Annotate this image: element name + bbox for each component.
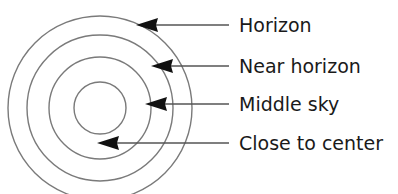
- label-arrows: [97, 18, 229, 150]
- center-ring: [74, 82, 126, 134]
- label-horizon: Horizon: [239, 14, 312, 36]
- arrow-icon: [145, 97, 229, 111]
- arrow-icon: [136, 18, 229, 32]
- label-middle-sky: Middle sky: [239, 93, 339, 115]
- arrow-icon: [97, 136, 229, 150]
- label-close-to-center: Close to center: [239, 132, 383, 154]
- label-near-horizon: Near horizon: [239, 55, 361, 77]
